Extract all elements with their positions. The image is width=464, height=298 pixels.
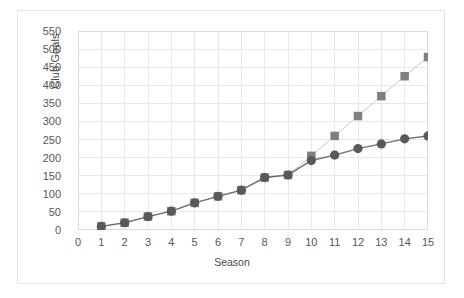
x-axis-tick-label: 4 <box>158 236 184 248</box>
x-axis-tick-label: 14 <box>392 236 418 248</box>
data-point-marker <box>377 92 386 101</box>
x-axis-tick-label: 10 <box>298 236 324 248</box>
data-point-marker <box>377 139 386 148</box>
x-axis-tick-label: 2 <box>112 236 138 248</box>
data-point-marker <box>190 198 199 207</box>
gridlines <box>78 31 428 230</box>
x-axis-tick-label: 12 <box>345 236 371 248</box>
x-axis-tick-label: 15 <box>415 236 441 248</box>
x-axis-tick-label: 9 <box>275 236 301 248</box>
x-axis-tick-label: 1 <box>88 236 114 248</box>
data-point-marker <box>237 186 246 195</box>
x-axis-tick-label: 5 <box>182 236 208 248</box>
x-axis-tick-label: 3 <box>135 236 161 248</box>
data-point-marker <box>400 72 409 81</box>
x-axis-tick-label: 6 <box>205 236 231 248</box>
y-axis-tick-label: 0 <box>21 224 61 236</box>
data-point-marker <box>167 207 176 216</box>
chart-screenshot: 050100150200250300350400450500550 Club G… <box>0 0 464 298</box>
data-point-marker <box>283 170 292 179</box>
data-point-marker <box>353 144 362 153</box>
data-point-marker <box>354 112 363 121</box>
chart-canvas <box>78 31 428 230</box>
plot-area <box>78 31 428 230</box>
y-axis-tick-label: 100 <box>21 188 61 200</box>
x-axis-tick-label: 0 <box>65 236 91 248</box>
x-axis-tick-label: 8 <box>252 236 278 248</box>
x-axis-tick-label: 7 <box>228 236 254 248</box>
y-axis-tick-label: 200 <box>21 152 61 164</box>
x-axis-title: Season <box>0 256 464 268</box>
y-axis-tick-label: 250 <box>21 134 61 146</box>
data-point-marker <box>424 53 428 62</box>
data-point-marker <box>307 156 316 165</box>
data-point-marker <box>213 192 222 201</box>
series-circle <box>97 131 428 230</box>
y-axis-title: Club Goals <box>49 1 61 121</box>
data-point-marker <box>330 132 339 141</box>
data-point-marker <box>120 218 129 227</box>
x-axis-tick-label: 11 <box>322 236 348 248</box>
data-point-marker <box>260 173 269 182</box>
y-axis-tick-label: 150 <box>21 170 61 182</box>
x-axis-tick-label: 13 <box>368 236 394 248</box>
plot-border <box>79 32 428 230</box>
data-point-marker <box>143 212 152 221</box>
data-point-marker <box>400 134 409 143</box>
y-axis-tick-label: 50 <box>21 206 61 218</box>
data-point-marker <box>330 151 339 160</box>
